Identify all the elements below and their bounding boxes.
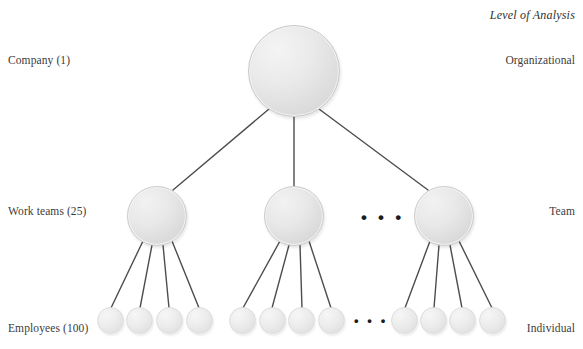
connector-line [309,241,331,308]
connector-line [272,245,289,308]
connector-line [459,241,492,308]
connector-line [172,241,199,308]
ellipsis-employees: • • • [354,314,388,327]
connector-line [140,245,152,308]
connector-line [163,245,169,308]
right-label-team: Team [0,205,575,218]
right-label-organizational: Organizational [0,54,575,67]
connector-line [450,245,462,308]
connector-line [111,241,143,308]
diagram-title: Level of Analysis [490,8,575,23]
right-label-individual: Individual [0,322,575,335]
connector-line [434,245,439,308]
connector-line [319,109,428,190]
connector-line [300,245,302,308]
org-hierarchy-diagram: Level of Analysis Company (1)Work teams … [0,0,583,349]
ellipsis-teams: • • • [361,209,404,226]
connector-line [405,241,430,308]
organization-node [248,25,340,117]
connector-line [173,109,269,190]
